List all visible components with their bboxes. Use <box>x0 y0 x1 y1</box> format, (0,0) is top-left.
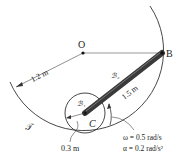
label-point-c: C <box>89 118 96 129</box>
point-o <box>81 51 84 54</box>
label-alpha: α = 0.2 rad/s² <box>123 144 164 153</box>
dimension-line-radius <box>16 53 83 87</box>
label-point-b: B <box>166 48 173 59</box>
label-point-o: O <box>78 39 85 50</box>
label-omega: ω = 0.5 rad/s <box>123 133 162 142</box>
arrowhead-icon <box>107 103 111 109</box>
label-disk-body: ℬ₁ <box>77 100 85 108</box>
label-disk-radius: 0.3 m <box>61 144 80 153</box>
label-rod-body: ℬ₂ <box>111 72 120 80</box>
rod-highlight <box>86 52 161 111</box>
point-b <box>160 51 164 55</box>
label-big-radius: 1.2 m <box>29 67 50 84</box>
arrowhead-icon <box>16 82 23 87</box>
leader-line-kinematics <box>112 117 134 130</box>
diagram-canvas: O B C 𝒯 ℬ₁ ℬ₂ 1.2 m 1.5 m 0.3 m ω = 0.5 … <box>0 0 189 159</box>
label-fixed-body: 𝒯 <box>25 122 35 132</box>
arrowhead-icon <box>66 115 71 119</box>
rod-body <box>85 53 162 113</box>
